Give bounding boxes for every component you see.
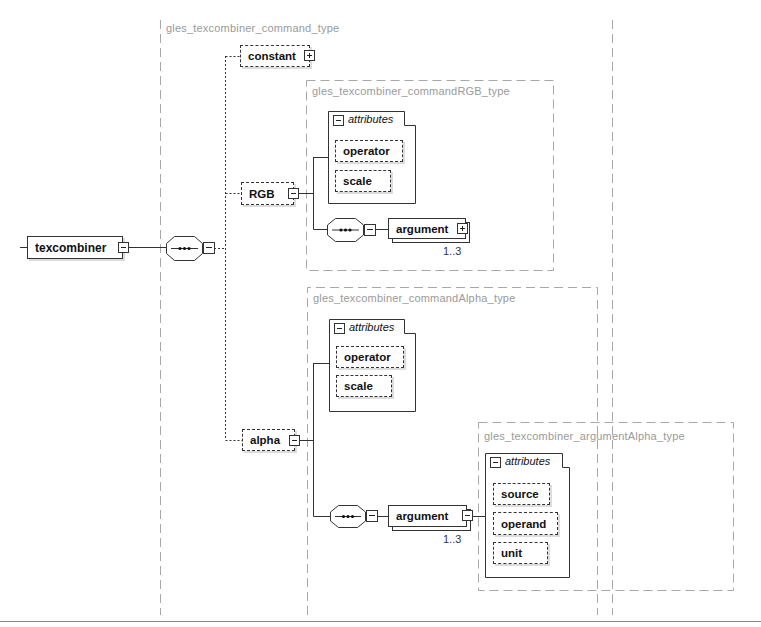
minus-icon[interactable]: [333, 115, 344, 126]
sequence-icon: [330, 505, 366, 528]
attribute-operator[interactable]: operator: [336, 346, 404, 368]
element-alpha-argument[interactable]: argument: [388, 505, 467, 527]
attribute-scale[interactable]: scale: [335, 170, 391, 192]
attribute-label: scale: [343, 175, 372, 187]
sequence-icon: [327, 218, 364, 242]
attribute-operator[interactable]: operator: [335, 140, 403, 162]
element-label: alpha: [250, 434, 280, 446]
attribute-operand[interactable]: operand: [493, 512, 558, 535]
occurrence-label: 1..3: [443, 533, 461, 545]
type-label-argument-alpha: gles_texcombiner_argumentAlpha_type: [484, 430, 685, 442]
element-label: argument: [396, 510, 448, 522]
element-constant[interactable]: constant: [240, 45, 310, 67]
sequence-icon: [166, 236, 203, 261]
type-label-command-rgb: gles_texcombiner_commandRGB_type: [312, 85, 510, 97]
sequence-compositor-alpha[interactable]: [330, 505, 366, 528]
attribute-scale[interactable]: scale: [336, 375, 392, 397]
type-label-command: gles_texcombiner_command_type: [166, 22, 339, 34]
sequence-compositor-rgb[interactable]: [327, 218, 364, 242]
element-alpha[interactable]: alpha: [242, 429, 295, 451]
element-rgb[interactable]: RGB: [241, 182, 294, 205]
plus-icon[interactable]: [457, 223, 468, 234]
minus-icon[interactable]: [490, 457, 501, 468]
element-label: argument: [396, 223, 448, 235]
minus-icon[interactable]: [118, 242, 129, 253]
attribute-label: operand: [501, 518, 546, 530]
attribute-unit[interactable]: unit: [493, 542, 548, 564]
element-label: constant: [248, 50, 296, 62]
occurrence-label: 1..3: [443, 245, 461, 257]
attribute-label: scale: [344, 380, 373, 392]
plus-icon[interactable]: [304, 50, 315, 61]
attribute-label: operator: [344, 351, 391, 363]
minus-icon[interactable]: [288, 188, 299, 199]
attributes-title: attributes: [348, 113, 393, 125]
element-texcombiner[interactable]: texcombiner: [27, 236, 123, 259]
minus-icon[interactable]: [334, 323, 345, 334]
attributes-title: attributes: [349, 321, 394, 333]
schema-diagram: gles_texcombiner_command_type gles_texco…: [0, 0, 761, 627]
attribute-label: unit: [501, 547, 522, 559]
minus-icon[interactable]: [462, 510, 473, 521]
element-label: RGB: [249, 188, 275, 200]
minus-icon[interactable]: [203, 242, 215, 254]
minus-icon[interactable]: [366, 510, 378, 522]
element-label: texcombiner: [35, 241, 106, 255]
minus-icon[interactable]: [289, 435, 300, 446]
element-rgb-argument[interactable]: argument: [388, 218, 466, 239]
attribute-label: source: [501, 488, 539, 500]
minus-icon[interactable]: [364, 224, 376, 236]
attribute-source[interactable]: source: [493, 483, 550, 505]
attributes-title: attributes: [505, 455, 550, 467]
attribute-label: operator: [343, 145, 390, 157]
type-label-command-alpha: gles_texcombiner_commandAlpha_type: [313, 292, 515, 304]
sequence-compositor-root[interactable]: [166, 236, 203, 261]
